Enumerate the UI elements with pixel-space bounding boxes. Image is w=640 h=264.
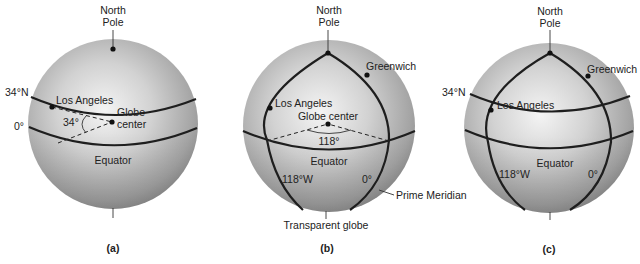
label-0-deg: 0° (14, 120, 24, 132)
label-prime-meridian: Prime Meridian (396, 189, 467, 201)
label-north: North (537, 5, 563, 17)
label-equator: Equator (311, 155, 348, 167)
label-pole: Pole (539, 17, 560, 29)
label-34n: 34°N (442, 86, 465, 98)
label-angle-118: 118° (319, 135, 340, 147)
label-globe: Globe (117, 106, 145, 118)
label-equator: Equator (95, 154, 132, 166)
label-los-angeles: Los Angeles (275, 97, 332, 109)
los-angeles-dot (49, 104, 54, 109)
los-angeles-dot (488, 107, 493, 112)
label-greenwich: Greenwich (366, 60, 416, 72)
label-pole: Pole (318, 16, 339, 28)
label-118w: 118°W (282, 173, 313, 185)
label-globe-center: Globe center (298, 110, 359, 122)
panel-c: North Pole Greenwich 34°N Los Angeles Eq… (442, 5, 637, 255)
north-pole-dot (547, 50, 552, 55)
globe-coordinates-figure: North Pole 34°N 0° Los Angeles Globe cen… (0, 0, 640, 264)
label-pole: Pole (102, 16, 123, 28)
north-pole-dot (110, 46, 115, 51)
panel-b: North Pole Greenwich Los Angeles Globe c… (243, 4, 467, 254)
label-118w: 118°W (499, 168, 530, 180)
label-equator: Equator (537, 157, 574, 169)
label-0-deg: 0° (588, 168, 598, 180)
greenwich-dot (364, 72, 369, 77)
label-los-angeles: Los Angeles (56, 94, 113, 106)
north-pole-dot (325, 50, 330, 55)
panel-a: North Pole 34°N 0° Los Angeles Globe cen… (5, 4, 198, 254)
globe-center-dot (325, 121, 330, 126)
caption-a: (a) (107, 242, 120, 254)
caption-c: (c) (543, 243, 556, 255)
los-angeles-dot (267, 105, 272, 110)
label-0-deg: 0° (362, 173, 372, 185)
label-34n: 34°N (5, 86, 28, 98)
label-center: center (117, 118, 147, 130)
globe-center-dot (109, 119, 114, 124)
label-north: North (316, 4, 342, 16)
caption-b: (b) (320, 242, 333, 254)
label-los-angeles: Los Angeles (497, 99, 554, 111)
label-greenwich: Greenwich (587, 63, 637, 75)
label-north: North (100, 4, 126, 16)
label-angle-34: 34° (63, 116, 79, 128)
label-transparent-globe: Transparent globe (284, 219, 369, 231)
